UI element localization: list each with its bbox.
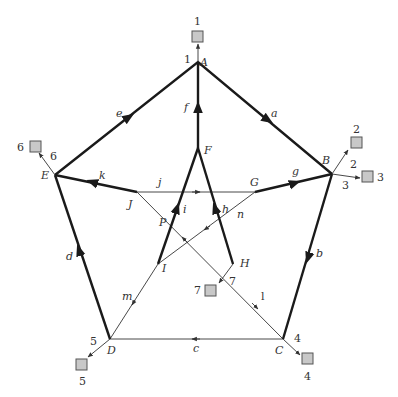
edge-label-g: g [292,165,299,178]
node-label-D: D [106,344,116,357]
lead-label-7: 7 [229,275,236,288]
edge-labels: a b c d e f g h i j k m n [66,101,323,355]
terminal-box-3 [362,171,373,182]
arrow-d [79,250,80,253]
terminal-leads [39,44,360,357]
edge-label-a: a [271,107,278,120]
lead-2 [332,150,348,174]
node-label-A: A [199,56,208,69]
thin-edges [110,192,283,339]
terminal-label-2: 2 [353,123,360,136]
terminal-box-2 [351,137,362,148]
terminal-box-4 [302,353,313,364]
arrow-h [215,208,216,211]
arrow-n [204,226,210,230]
edge-label-d: d [66,250,73,263]
arrow-a [265,118,268,120]
node-label-I: I [161,262,167,275]
lead-label-2: 2 [350,158,357,171]
arrow-i [176,208,177,211]
edge-label-f: f [183,101,190,114]
terminal-numbers: 1 1 2 2 3 3 4 4 5 5 6 6 7 7 l [17,15,384,388]
terminals [30,31,373,370]
arrow-m [132,300,135,305]
edge-label-n: n [237,208,244,221]
terminal-box-7 [205,285,216,296]
arrow-jh [182,237,188,243]
edge-label-e: e [116,107,123,120]
lead-label-6: 6 [50,150,57,163]
node-label-E: E [40,169,49,182]
node-label-H: H [239,257,250,270]
terminal-label-1: 1 [194,15,201,28]
arrow-k [92,182,95,183]
terminal-label-6: 6 [17,141,24,154]
terminal-label-3: 3 [377,171,384,184]
edge-k [55,175,137,192]
node-label-J: J [126,198,133,211]
terminal-box-6 [30,141,41,152]
node-label-G: G [250,176,259,189]
edge-label-i: i [183,203,187,216]
terminal-box-5 [76,359,87,370]
arrow-e [126,117,129,119]
terminal-label-4: 4 [304,370,311,383]
graph-diagram: 1 1 2 2 3 3 4 4 5 5 6 6 7 7 l A B C D E … [0,0,398,397]
lead-label-5: 5 [90,335,97,348]
edge-label-m: m [122,290,132,303]
lead-label-1: 1 [184,53,191,66]
node-label-B: B [321,154,330,167]
terminal-label-5: 5 [79,375,86,388]
node-label-P: P [158,216,167,229]
lead-label-4: 4 [294,332,301,345]
edge-label-c: c [193,342,199,355]
thick-edges [55,62,332,339]
edge-label-k: k [99,169,106,182]
arrow-b [308,255,309,258]
node-label-C: C [275,344,284,357]
lead-3 [332,174,360,178]
edge-d [55,175,110,339]
edge-l-line [137,192,283,339]
edge-i [158,148,198,264]
edge-label-h: h [222,203,229,216]
edge-label-b: b [316,247,323,260]
terminal-box-1 [192,31,203,42]
lead-label-3: 3 [342,179,349,192]
edge-label-j: j [155,176,162,189]
lead-label-l: l [261,290,265,303]
arrow-g [292,183,295,184]
terminal-label-7: 7 [194,284,201,297]
node-label-F: F [203,144,212,157]
